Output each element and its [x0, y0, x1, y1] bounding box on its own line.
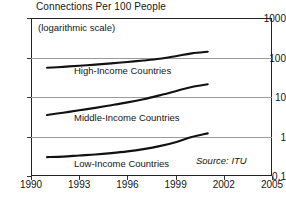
series-label-middle-income: Middle-Income Countries [74, 112, 180, 123]
source-attribution: Source: ITU [196, 155, 247, 166]
chart-root: Connections Per 100 People (logarithmic … [0, 0, 286, 197]
curve-low-income [47, 133, 208, 157]
curve-middle-income [47, 84, 208, 115]
series-label-high-income: High-Income Countries [74, 65, 171, 76]
series-label-low-income: Low-Income Countries [74, 158, 169, 169]
